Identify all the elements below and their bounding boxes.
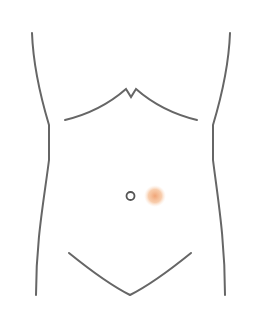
abdomen-outline xyxy=(0,0,260,312)
left-torso-line xyxy=(32,33,49,295)
ribcage-line xyxy=(65,89,197,120)
abdomen-diagram xyxy=(0,0,260,312)
pelvis-line xyxy=(69,253,191,295)
pain-spot-marker xyxy=(144,185,166,207)
right-torso-line xyxy=(213,33,230,295)
navel-icon xyxy=(127,192,135,200)
